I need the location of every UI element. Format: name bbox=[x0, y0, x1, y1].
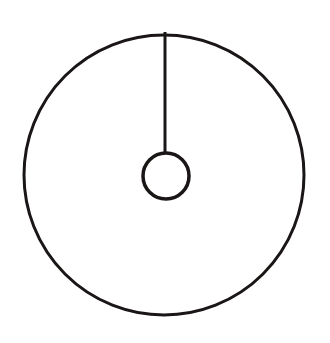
inner-circle bbox=[143, 153, 189, 199]
diagram-canvas bbox=[0, 0, 330, 343]
